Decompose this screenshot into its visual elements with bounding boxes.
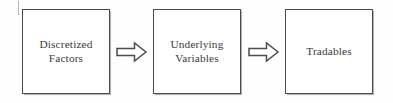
node-label-line1: Tradables bbox=[306, 45, 352, 59]
node-label-line1: Discretized bbox=[39, 38, 92, 52]
node-underlying-variables[interactable]: Underlying Variables bbox=[153, 9, 241, 94]
scan-artifact bbox=[18, 1, 19, 15]
node-discretized-factors[interactable]: Discretized Factors bbox=[22, 9, 110, 94]
node-tradables[interactable]: Tradables bbox=[285, 9, 373, 94]
arrow-right-icon-factors-to-variables bbox=[116, 42, 147, 62]
node-label-line1: Underlying bbox=[171, 38, 224, 52]
node-label-line2: Variables bbox=[175, 52, 218, 66]
arrow-right-icon-variables-to-tradables bbox=[248, 42, 279, 62]
node-label-line2: Factors bbox=[49, 52, 83, 66]
diagram-canvas: Discretized Factors Underlying Variables… bbox=[0, 0, 393, 103]
